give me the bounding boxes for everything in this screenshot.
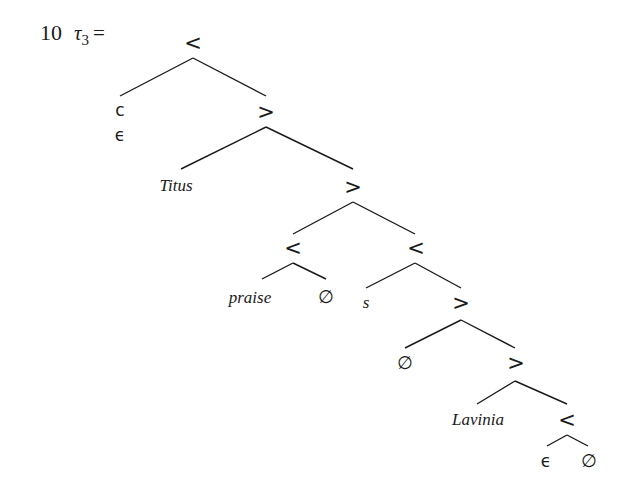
node-s: s bbox=[363, 293, 370, 312]
node-empty-1: ∅ bbox=[318, 286, 334, 307]
node-lt-final: < bbox=[558, 408, 576, 432]
node-gt-4: > bbox=[507, 351, 525, 375]
tree-name-label: τ3= bbox=[74, 21, 105, 48]
node-gt-3: > bbox=[452, 291, 470, 315]
node-lt-praise: < bbox=[284, 236, 302, 260]
example-number: 10 bbox=[40, 20, 62, 45]
tree-diagram: 10 τ3= < c ϵ > Titus > < praise ∅ < s > … bbox=[0, 0, 622, 487]
node-root-lt: < bbox=[184, 31, 202, 55]
node-empty-3: ∅ bbox=[581, 450, 597, 471]
node-c: c bbox=[115, 100, 124, 120]
node-gt-2: > bbox=[344, 175, 362, 199]
node-c-epsilon: ϵ bbox=[115, 125, 125, 145]
node-praise: praise bbox=[228, 288, 272, 307]
tree-edges bbox=[120, 58, 588, 446]
node-titus: Titus bbox=[159, 176, 192, 195]
node-gt-1: > bbox=[257, 100, 275, 124]
tree-nodes: < c ϵ > Titus > < praise ∅ < s > ∅ > Lav… bbox=[115, 31, 597, 471]
node-lt-s: < bbox=[407, 236, 425, 260]
node-epsilon-final: ϵ bbox=[541, 451, 551, 471]
node-lavinia: Lavinia bbox=[451, 410, 504, 429]
node-empty-2: ∅ bbox=[397, 352, 413, 373]
